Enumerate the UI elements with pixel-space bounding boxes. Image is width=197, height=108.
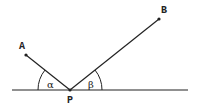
point-p-dot (68, 88, 71, 91)
point-a-dot (24, 53, 27, 56)
alpha-arc (38, 70, 45, 90)
segment-pb (70, 19, 159, 90)
beta-arc (95, 70, 102, 90)
label-beta: β (88, 79, 94, 90)
reflection-diagram: A B P α β (0, 0, 197, 108)
point-b-dot (157, 17, 160, 20)
label-b: B (161, 5, 167, 16)
label-alpha: α (47, 79, 54, 90)
label-a: A (19, 41, 25, 52)
label-p: P (67, 95, 73, 106)
